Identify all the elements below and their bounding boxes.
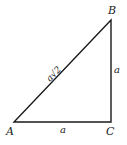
side-label-bc: a — [114, 64, 120, 75]
side-label-ac: a — [60, 124, 66, 135]
side-label-ab: a√2 — [44, 64, 63, 83]
vertex-label-b: B — [107, 4, 116, 17]
triangle-diagram: A B C a a a√2 — [0, 0, 127, 145]
vertex-label-a: A — [5, 125, 14, 138]
vertex-label-c: C — [106, 125, 115, 138]
